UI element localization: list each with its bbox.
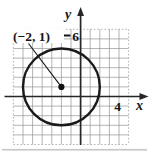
coordinate-plane-figure: (−2, 1) 6 4 y x	[0, 0, 150, 151]
center-point-label: (−2, 1)	[13, 29, 50, 44]
y-scale-label: 6	[72, 29, 79, 44]
scan-smudge	[2, 149, 147, 151]
figure-canvas: (−2, 1) 6 4 y x	[0, 0, 150, 151]
y-axis-label: y	[63, 7, 72, 22]
x-axis-label: x	[135, 98, 143, 113]
x-scale-label: 4	[114, 99, 121, 114]
center-point	[58, 84, 64, 90]
